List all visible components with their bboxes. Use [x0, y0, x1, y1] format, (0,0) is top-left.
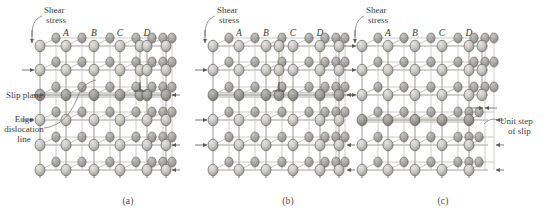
edge-dislocation-line3: line — [17, 134, 31, 144]
shear-stress-leader — [355, 16, 364, 36]
panel-c-caption: (c) — [351, 196, 535, 206]
column-label-B: B — [263, 28, 269, 38]
annotation-unit-step-of-slip-c: Unit step of slip — [484, 116, 533, 136]
shear-stress-leader — [32, 16, 42, 36]
shear-arrows-b — [195, 70, 207, 145]
shear-stress-line1: Shear — [217, 5, 238, 15]
panel-c-diagram: Shear stress A B C D — [352, 0, 552, 212]
annotation-shear-stress-c: Shear stress — [355, 5, 388, 43]
column-label-B: B — [91, 28, 97, 38]
column-label-A: A — [384, 28, 391, 38]
annotation-shear-stress-b: Shear stress — [205, 5, 239, 43]
column-label-A: A — [235, 28, 242, 38]
shear-stress-leader — [205, 16, 215, 36]
panel-a-diagram: Shear stress A B C D — [0, 0, 184, 212]
column-label-C: C — [290, 28, 297, 38]
figure-root: Shear stress A B C D — [0, 0, 552, 212]
edge-dislocation-line1: Edge — [15, 114, 34, 124]
shear-stress-line2: stress — [368, 15, 388, 25]
unit-step-line1: Unit step — [500, 116, 533, 126]
shear-stress-line1: Shear — [44, 5, 65, 15]
annotation-shear-stress-a: Shear stress — [32, 5, 66, 43]
unit-step-line2: of slip — [508, 126, 531, 136]
edge-dislocation-line2: dislocation — [4, 124, 44, 134]
shear-stress-line2: stress — [46, 15, 66, 25]
panel-c: Shear stress A B C D — [352, 0, 536, 212]
column-label-B: B — [412, 28, 418, 38]
shear-stress-line2: stress — [219, 15, 239, 25]
shear-stress-line1: Shear — [366, 5, 387, 15]
panel-a: Shear stress A B C D — [0, 0, 184, 212]
column-label-C: C — [439, 28, 446, 38]
column-label-A: A — [62, 28, 69, 38]
annotation-slip-plane-a: Slip plane — [6, 90, 44, 100]
panel-b-diagram: Shear stress A B C D — [177, 0, 361, 212]
column-label-C: C — [117, 28, 124, 38]
shear-arrows-right-c — [496, 120, 504, 170]
panel-b: Shear stress A B C D — [177, 0, 361, 212]
